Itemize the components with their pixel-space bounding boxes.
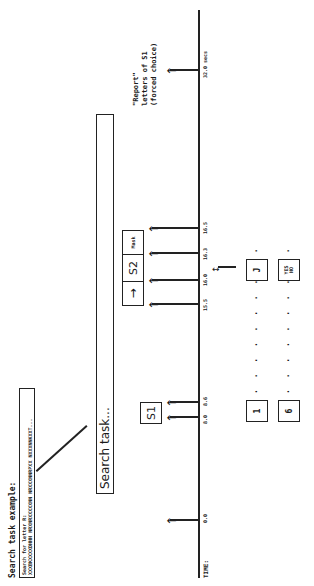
search-task-bar: Search task... bbox=[96, 114, 114, 494]
s1-box: S1 bbox=[140, 402, 162, 424]
timeline-axis bbox=[198, 10, 200, 578]
example-title: Search task example: bbox=[8, 482, 17, 578]
double-arrow-icon: ↕ bbox=[210, 265, 222, 273]
tick-line-t32 bbox=[170, 70, 198, 72]
tick-label-0: 0.0 bbox=[202, 514, 208, 523]
example-line2: XXXBKXXXXDNNN NRXNRXXXXXNN NRXXXNNRPXX N… bbox=[27, 389, 33, 575]
mask-box: Mask bbox=[122, 230, 144, 255]
example-box: Search for letter R: XXXBKXXXXDNNN NRXNR… bbox=[19, 388, 35, 578]
search-task-label: Search task... bbox=[98, 407, 112, 489]
tick-line-t16-3 bbox=[152, 253, 198, 255]
timeline-label: TIME: bbox=[202, 560, 209, 578]
report-line2: letters of S1 bbox=[141, 43, 150, 106]
tick-label-1: 8.0 bbox=[202, 415, 208, 424]
tick-label-3: 15.5 bbox=[202, 299, 208, 311]
tick-label-7: 32.0 secs bbox=[202, 51, 208, 78]
tick-line-t0 bbox=[170, 520, 198, 522]
cue-arrow-box: → bbox=[122, 281, 144, 306]
tick-label-2: 8.6 bbox=[202, 397, 208, 406]
report-line3: (forced choice) bbox=[150, 43, 159, 106]
tick-label-4: 16.0 bbox=[202, 274, 208, 286]
tick-label-6: 16.5 bbox=[202, 222, 208, 234]
mask-label: Mask bbox=[130, 236, 136, 248]
cue-arrow-icon: → bbox=[126, 288, 140, 298]
tick-line-t16-5 bbox=[152, 228, 198, 230]
tick-line-t16 bbox=[152, 280, 198, 282]
tick-line-t15-5 bbox=[152, 304, 198, 306]
response-row2-last: YES NO bbox=[278, 259, 300, 281]
s2-box: S2 bbox=[122, 254, 144, 282]
s2-label: S2 bbox=[127, 261, 140, 275]
tick-line-t8 bbox=[170, 417, 198, 419]
tick-label-5: 16.3 bbox=[202, 248, 208, 260]
response-row2-first: 6 bbox=[278, 400, 300, 422]
report-line1: "Report" bbox=[132, 43, 141, 106]
response-row1-last: J bbox=[246, 259, 268, 281]
rotated-diagram-canvas: Search task example: Search for letter R… bbox=[0, 0, 314, 586]
response-row1-first: 1 bbox=[246, 400, 268, 422]
tick-line-t8-6 bbox=[170, 402, 198, 404]
report-text: "Report" letters of S1 (forced choice) bbox=[132, 43, 159, 106]
example-connector-line bbox=[36, 425, 88, 472]
s1-label: S1 bbox=[145, 406, 158, 420]
